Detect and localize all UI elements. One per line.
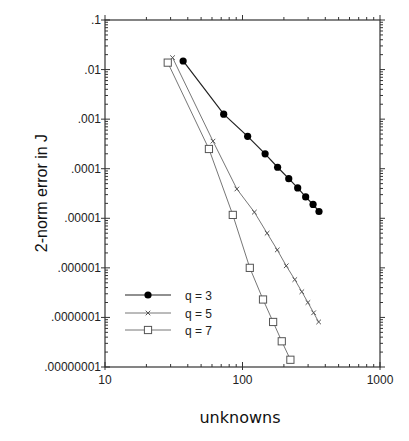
y-tick-labels: .1.01.001.0001.00001.000001.0000001.0000… bbox=[44, 13, 101, 374]
open-square-marker-icon bbox=[278, 338, 285, 345]
legend-entry: q = 5 bbox=[125, 307, 212, 321]
open-square-marker-icon bbox=[205, 145, 212, 152]
y-tick-label: .001 bbox=[78, 112, 102, 126]
x-marker-icon bbox=[306, 300, 311, 305]
open-square-marker-icon bbox=[144, 326, 151, 333]
x-axis-label: unknowns bbox=[199, 408, 280, 427]
y-tick-label: .00001 bbox=[64, 211, 101, 225]
x-marker-icon bbox=[300, 289, 305, 294]
series-q-7 bbox=[164, 59, 294, 363]
x-tick-label: 10 bbox=[98, 373, 112, 387]
open-square-marker-icon bbox=[287, 356, 294, 363]
series-q-3 bbox=[180, 57, 323, 215]
filled-circle-marker-icon bbox=[244, 133, 251, 140]
axis-ticks bbox=[101, 15, 385, 370]
y-axis-label: 2-norm error in J bbox=[33, 134, 50, 252]
open-square-marker-icon bbox=[259, 296, 266, 303]
y-tick-label: .000001 bbox=[58, 261, 102, 275]
filled-circle-marker-icon bbox=[302, 193, 309, 200]
filled-circle-marker-icon bbox=[144, 291, 151, 298]
open-square-marker-icon bbox=[246, 264, 253, 271]
x-marker-icon bbox=[211, 139, 216, 144]
filled-circle-marker-icon bbox=[180, 57, 187, 64]
x-marker-icon bbox=[265, 231, 270, 236]
x-marker-icon bbox=[292, 277, 297, 282]
open-square-marker-icon bbox=[229, 211, 236, 218]
filled-circle-marker-icon bbox=[261, 150, 268, 157]
x-marker-icon bbox=[235, 187, 240, 192]
filled-circle-marker-icon bbox=[220, 111, 227, 118]
x-marker-icon bbox=[275, 248, 280, 253]
legend-label: q = 3 bbox=[185, 289, 212, 303]
legend-label: q = 7 bbox=[185, 324, 212, 338]
open-square-marker-icon bbox=[164, 59, 171, 66]
filled-circle-marker-icon bbox=[315, 208, 322, 215]
filled-circle-marker-icon bbox=[294, 184, 301, 191]
x-marker-icon bbox=[316, 320, 321, 325]
x-tick-label: 100 bbox=[232, 373, 252, 387]
legend-label: q = 5 bbox=[185, 307, 212, 321]
legend: q = 3q = 5q = 7 bbox=[125, 289, 212, 338]
x-marker-icon bbox=[311, 310, 316, 315]
filled-circle-marker-icon bbox=[285, 175, 292, 182]
x-tick-label: 1000 bbox=[367, 373, 394, 387]
x-marker-icon bbox=[252, 210, 257, 215]
y-tick-label: .1 bbox=[91, 13, 101, 27]
convergence-chart: .1.01.001.0001.00001.000001.0000001.0000… bbox=[0, 0, 409, 441]
y-tick-label: .01 bbox=[84, 63, 101, 77]
filled-circle-marker-icon bbox=[309, 201, 316, 208]
x-tick-labels: 101001000 bbox=[98, 373, 393, 387]
y-tick-label: .00000001 bbox=[44, 360, 101, 374]
open-square-marker-icon bbox=[270, 318, 277, 325]
filled-circle-marker-icon bbox=[274, 164, 281, 171]
y-tick-label: .0000001 bbox=[51, 310, 101, 324]
legend-entry: q = 7 bbox=[125, 324, 212, 338]
x-marker-icon bbox=[284, 264, 289, 269]
legend-entry: q = 3 bbox=[125, 289, 212, 303]
y-tick-label: .0001 bbox=[71, 162, 101, 176]
